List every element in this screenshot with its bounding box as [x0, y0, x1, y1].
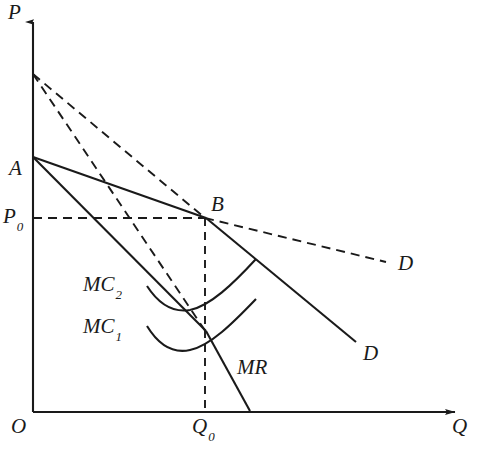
- quantity-q0-letter: Q: [192, 414, 207, 438]
- quantity-q0-subscript: 0: [208, 429, 215, 444]
- quantity-q0-label: Q0: [192, 416, 214, 440]
- origin-label: O: [11, 416, 26, 437]
- mc2-subscript: 2: [116, 287, 123, 302]
- price-p0-label: P0: [3, 206, 22, 230]
- mc1-subscript: 1: [116, 329, 123, 344]
- dashed-demand-curve-upper: [33, 74, 205, 218]
- mc2-letters: MC: [83, 272, 115, 296]
- point-a-label: A: [9, 158, 22, 179]
- quantity-axis-label: Q: [452, 416, 467, 437]
- price-axis-label: P: [8, 2, 21, 23]
- mc1-letters: MC: [83, 314, 115, 338]
- economics-diagram: P Q O A B P0 Q0 MC2 MC1 MR D D: [0, 0, 479, 464]
- mr-label: MR: [237, 357, 267, 378]
- mc2-label: MC2: [83, 274, 121, 298]
- solid-demand-curve-upper: [33, 157, 206, 218]
- point-b-label: B: [211, 194, 224, 215]
- price-p0-letter: P: [3, 204, 16, 228]
- mc1-label: MC1: [83, 316, 121, 340]
- diagram-canvas: [0, 0, 479, 464]
- solid-demand-label: D: [363, 343, 378, 364]
- solid-marginal-revenue-upper: [33, 157, 206, 331]
- dashed-demand-label: D: [398, 253, 413, 274]
- price-p0-subscript: 0: [17, 219, 24, 234]
